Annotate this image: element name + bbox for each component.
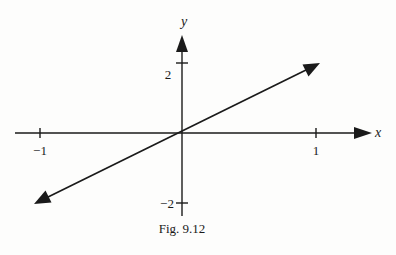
line-end-arrow-icon xyxy=(303,63,321,77)
x-axis xyxy=(15,127,372,139)
figure-caption: Fig. 9.12 xyxy=(159,221,206,236)
y-tick-label-2: 2 xyxy=(165,67,172,82)
figure: y x −1 1 2 −2 Fig. 9.12 xyxy=(0,0,396,255)
x-tick-label-1: 1 xyxy=(313,143,320,158)
y-axis-label: y xyxy=(179,14,188,29)
x-tick-label-minus-1: −1 xyxy=(33,143,47,158)
y-axis-arrow-icon xyxy=(176,35,188,52)
x-axis-arrow-icon xyxy=(354,127,372,139)
line-start-arrow-icon xyxy=(34,191,52,205)
chart-canvas: y x −1 1 2 −2 Fig. 9.12 xyxy=(0,0,396,255)
x-axis-label: x xyxy=(374,125,382,140)
y-axis xyxy=(176,35,188,216)
y-tick-label-minus-2: −2 xyxy=(160,196,174,211)
